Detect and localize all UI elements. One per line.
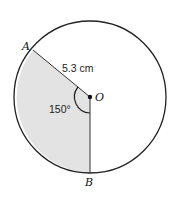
label-point-b: B bbox=[84, 176, 93, 189]
center-point-o bbox=[88, 95, 92, 99]
angle-label: 150° bbox=[49, 103, 71, 115]
radius-length-label: 5.3 cm bbox=[62, 62, 94, 74]
circle-diagram: A O B 5.3 cm 150° bbox=[0, 0, 177, 197]
label-point-o: O bbox=[95, 91, 104, 104]
label-point-a: A bbox=[21, 40, 30, 53]
